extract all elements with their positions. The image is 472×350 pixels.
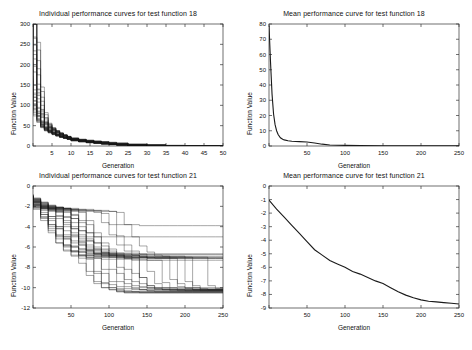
svg-text:150: 150: [142, 312, 153, 318]
svg-text:-2: -2: [261, 210, 267, 216]
svg-text:150: 150: [20, 82, 31, 88]
svg-text:-3: -3: [261, 224, 267, 230]
svg-text:50: 50: [304, 150, 311, 156]
svg-text:-2: -2: [25, 203, 31, 209]
svg-text:-4: -4: [25, 224, 31, 230]
svg-text:50: 50: [259, 67, 266, 73]
svg-text:-7: -7: [261, 278, 267, 284]
svg-text:10: 10: [68, 150, 75, 156]
svg-text:-6: -6: [25, 244, 31, 250]
svg-text:40: 40: [259, 82, 266, 88]
svg-text:35: 35: [163, 150, 170, 156]
svg-text:50: 50: [23, 123, 30, 129]
svg-text:-5: -5: [261, 251, 267, 257]
svg-text:-4: -4: [261, 237, 267, 243]
panel-mean-f18: Mean performance curve for test function…: [236, 10, 472, 175]
figure-performance-curves: Individual performance curves for test f…: [0, 0, 472, 350]
svg-text:15: 15: [87, 150, 94, 156]
svg-text:-9: -9: [261, 305, 267, 311]
panel-mean-f21: Mean performance curve for test function…: [236, 172, 472, 340]
panel-individual-f18: Individual performance curves for test f…: [0, 10, 236, 175]
svg-text:50: 50: [68, 312, 75, 318]
plot-area-mean-f18: 5010015020025001020304050607080: [236, 10, 472, 175]
svg-text:150: 150: [378, 150, 389, 156]
svg-text:250: 250: [218, 312, 229, 318]
svg-text:200: 200: [416, 150, 427, 156]
svg-text:30: 30: [144, 150, 151, 156]
svg-text:20: 20: [106, 150, 113, 156]
plot-area-individual-f21: 50100150200250-12-10-8-6-4-20: [0, 172, 236, 340]
svg-text:30: 30: [259, 97, 266, 103]
svg-text:0: 0: [263, 183, 267, 189]
svg-text:250: 250: [20, 41, 31, 47]
svg-text:100: 100: [340, 312, 351, 318]
plot-area-individual-f18: 5101520253035404550050100150200250300: [0, 10, 236, 175]
svg-text:25: 25: [125, 150, 132, 156]
svg-text:-6: -6: [261, 264, 267, 270]
svg-text:-1: -1: [261, 197, 267, 203]
svg-text:5: 5: [50, 150, 54, 156]
svg-text:-10: -10: [21, 285, 30, 291]
caption-strip: [0, 340, 472, 350]
svg-text:70: 70: [259, 36, 266, 42]
svg-text:20: 20: [259, 113, 266, 119]
panel-individual-f21: Individual performance curves for test f…: [0, 172, 236, 340]
svg-text:200: 200: [180, 312, 191, 318]
svg-text:0: 0: [27, 183, 31, 189]
svg-text:50: 50: [304, 312, 311, 318]
svg-text:250: 250: [454, 312, 465, 318]
svg-text:200: 200: [20, 62, 31, 68]
svg-text:100: 100: [20, 102, 31, 108]
svg-text:200: 200: [416, 312, 427, 318]
svg-text:60: 60: [259, 52, 266, 58]
svg-text:300: 300: [20, 21, 31, 27]
svg-text:40: 40: [182, 150, 189, 156]
svg-text:100: 100: [340, 150, 351, 156]
plot-area-mean-f21: 50100150200250-9-8-7-6-5-4-3-2-10: [236, 172, 472, 340]
svg-text:-8: -8: [25, 264, 31, 270]
svg-text:10: 10: [259, 128, 266, 134]
svg-text:80: 80: [259, 21, 266, 27]
svg-text:0: 0: [263, 143, 267, 149]
svg-text:-8: -8: [261, 291, 267, 297]
svg-text:100: 100: [104, 312, 115, 318]
svg-text:45: 45: [201, 150, 208, 156]
svg-text:0: 0: [27, 143, 31, 149]
svg-text:250: 250: [454, 150, 465, 156]
svg-text:150: 150: [378, 312, 389, 318]
svg-text:50: 50: [220, 150, 227, 156]
svg-text:-12: -12: [21, 305, 30, 311]
